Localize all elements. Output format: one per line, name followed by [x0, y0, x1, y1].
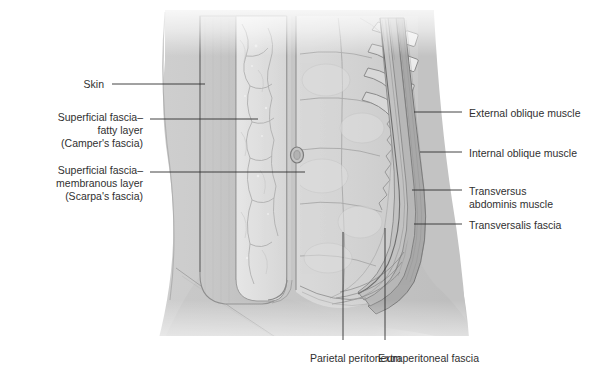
label-external-oblique: External oblique muscle — [469, 107, 580, 120]
bottom-plate — [0, 336, 597, 384]
umbilicus — [291, 147, 304, 163]
label-skin: Skin — [0, 78, 104, 91]
label-line: fatty layer — [0, 124, 143, 137]
label-transversalis-fascia: Transversalis fascia — [469, 219, 561, 232]
label-line: Superficial fascia– — [0, 164, 143, 177]
label-line: Transversus — [469, 185, 553, 198]
top-fade — [0, 0, 597, 56]
label-line: External oblique muscle — [469, 107, 580, 120]
label-internal-oblique: Internal oblique muscle — [469, 147, 577, 160]
label-extraperitoneal-fascia: Extraperitoneal fascia — [378, 352, 479, 365]
label-line: membranous layer — [0, 177, 143, 190]
label-transversus-abdominis: Transversusabdominis muscle — [469, 185, 553, 211]
camper-fatty-layer — [236, 16, 287, 301]
label-scarpas: Superficial fascia–membranous layer(Scar… — [0, 164, 143, 203]
label-line: abdominis muscle — [469, 198, 553, 211]
label-line: (Camper's fascia) — [0, 137, 143, 150]
label-line: Skin — [0, 78, 104, 91]
label-line: Extraperitoneal fascia — [378, 352, 479, 365]
label-campers: Superficial fascia–fatty layer(Camper's … — [0, 111, 143, 150]
label-line: (Scarpa's fascia) — [0, 190, 143, 203]
label-line: Internal oblique muscle — [469, 147, 577, 160]
label-line: Superficial fascia– — [0, 111, 143, 124]
label-line: Transversalis fascia — [469, 219, 561, 232]
